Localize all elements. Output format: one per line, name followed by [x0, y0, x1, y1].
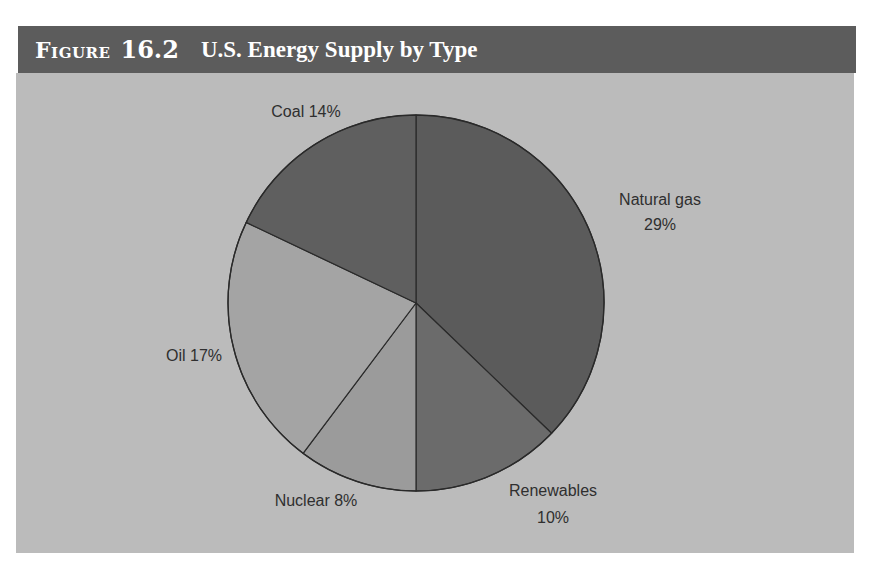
- label-nuclear: Nuclear 8%: [275, 492, 358, 509]
- pie-chart: Coal 14% Natural gas 29% Oil 17% Nuclear…: [0, 0, 874, 573]
- label-natural-gas-name: Natural gas: [619, 191, 701, 208]
- label-renewables-name: Renewables: [509, 482, 597, 499]
- label-natural-gas-pct: 29%: [644, 216, 676, 233]
- label-renewables-pct: 10%: [537, 509, 569, 526]
- label-oil: Oil 17%: [166, 347, 222, 364]
- label-coal: Coal 14%: [271, 103, 340, 120]
- pie-slices: [228, 115, 604, 491]
